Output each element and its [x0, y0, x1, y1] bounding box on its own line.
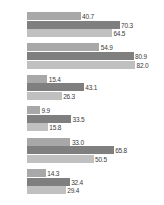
bar-fill [27, 146, 114, 154]
bar-fill [27, 52, 134, 60]
bar-fill [27, 83, 84, 91]
bar-value-label: 29.4 [67, 187, 79, 194]
bar[interactable]: 15.8 [27, 123, 48, 131]
bar-fill [27, 178, 70, 186]
bar[interactable]: 33.0 [27, 138, 70, 146]
bar-fill [27, 12, 81, 20]
bar-value-label: 33.0 [72, 138, 84, 145]
chart-legend [0, 0, 164, 5]
bar[interactable]: 40.7 [27, 12, 81, 20]
bar[interactable]: 80.9 [27, 52, 134, 60]
bar[interactable]: 26.3 [27, 92, 62, 100]
bar-group: 54.980.982.0 [0, 43, 164, 69]
bar[interactable]: 54.9 [27, 43, 99, 51]
bar-fill [27, 61, 135, 69]
bar-fill [27, 155, 94, 163]
bar-value-label: 26.3 [63, 92, 75, 99]
bar-value-label: 82.0 [137, 61, 149, 68]
plot-area: 40.770.364.554.980.982.015.443.126.39.93… [0, 10, 164, 205]
bar-fill [27, 115, 71, 123]
bar-value-label: 33.5 [73, 115, 85, 122]
bar-fill [27, 29, 112, 37]
bar-fill [27, 123, 48, 131]
bar-value-label: 40.7 [82, 13, 94, 20]
bar-fill [27, 169, 46, 177]
bar-fill [27, 106, 40, 114]
bar[interactable]: 50.5 [27, 155, 94, 163]
bar[interactable]: 70.3 [27, 21, 120, 29]
bar-group: 14.332.429.4 [0, 169, 164, 195]
bar-fill [27, 138, 70, 146]
bar[interactable]: 15.4 [27, 75, 47, 83]
bar[interactable]: 33.5 [27, 115, 71, 123]
bar-group: 40.770.364.5 [0, 12, 164, 38]
bar-value-label: 14.3 [47, 170, 59, 177]
bar-value-label: 43.1 [85, 84, 97, 91]
bar-fill [27, 43, 99, 51]
bar[interactable]: 29.4 [27, 186, 66, 194]
bar-value-label: 70.3 [121, 21, 133, 28]
bar-group: 33.065.850.5 [0, 138, 164, 164]
bar[interactable]: 32.4 [27, 178, 70, 186]
bar-fill [27, 92, 62, 100]
bar-value-label: 65.8 [115, 147, 127, 154]
bar[interactable]: 9.9 [27, 106, 40, 114]
bar-value-label: 54.9 [101, 44, 113, 51]
bar-value-label: 32.4 [71, 178, 83, 185]
bar-value-label: 9.9 [42, 107, 50, 114]
bar-group: 9.933.515.8 [0, 106, 164, 132]
bar[interactable]: 43.1 [27, 83, 84, 91]
bar-value-label: 15.4 [49, 75, 61, 82]
grouped-bar-chart: 40.770.364.554.980.982.015.443.126.39.93… [0, 0, 164, 205]
bar-group: 15.443.126.3 [0, 75, 164, 101]
bar-fill [27, 21, 120, 29]
bar[interactable]: 65.8 [27, 146, 114, 154]
bar-value-label: 15.8 [49, 124, 61, 131]
bar-fill [27, 75, 47, 83]
bar-value-label: 50.5 [95, 155, 107, 162]
bar[interactable]: 64.5 [27, 29, 112, 37]
bar-value-label: 64.5 [113, 30, 125, 37]
bar[interactable]: 14.3 [27, 169, 46, 177]
bar-value-label: 80.9 [135, 52, 147, 59]
bar-fill [27, 186, 66, 194]
bar[interactable]: 82.0 [27, 61, 135, 69]
